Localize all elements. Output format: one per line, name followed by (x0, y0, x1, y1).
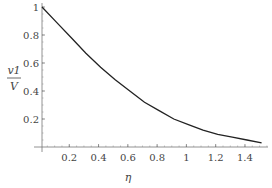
y-axis-label: v1 V (7, 64, 21, 93)
x-tick-label: 1.2 (208, 152, 224, 163)
y-tick-label: 0.2 (23, 114, 39, 125)
y-axis: 0.20.40.60.81 (23, 2, 45, 153)
data-curve (42, 7, 262, 143)
y-axis-label-denominator: V (10, 80, 19, 93)
x-tick-label: 1 (183, 152, 189, 163)
x-tick-label: 0.2 (61, 152, 77, 163)
line-chart: 0.20.40.60.811.21.4 0.20.40.60.81 η v1 V (0, 0, 272, 188)
x-tick-label: 0.4 (91, 152, 107, 163)
y-tick-label: 0.6 (23, 58, 39, 69)
y-tick-label: 1 (33, 2, 39, 13)
x-axis-label: η (125, 171, 132, 184)
x-tick-label: 1.4 (237, 152, 253, 163)
x-tick-label: 0.6 (120, 152, 136, 163)
y-axis-label-numerator: v1 (7, 64, 20, 77)
x-tick-label: 0.8 (149, 152, 165, 163)
y-tick-label: 0.4 (23, 86, 39, 97)
y-tick-label: 0.8 (23, 30, 39, 41)
x-axis: 0.20.40.60.811.21.4 (34, 144, 268, 163)
